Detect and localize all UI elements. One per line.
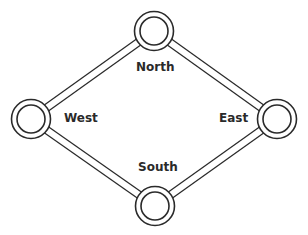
- node-south: [136, 187, 175, 226]
- node-label-east: East: [219, 111, 248, 125]
- node-label-west: West: [64, 111, 98, 125]
- node-north: [135, 12, 174, 51]
- edge-south-west: [31, 119, 155, 206]
- ring-diagram: [0, 0, 308, 235]
- node-label-north: North: [136, 60, 174, 74]
- edge-west-north: [31, 31, 154, 119]
- node-label-south: South: [138, 160, 178, 174]
- node-east: [258, 100, 297, 139]
- node-west: [12, 100, 51, 139]
- edge-north-east: [154, 31, 277, 119]
